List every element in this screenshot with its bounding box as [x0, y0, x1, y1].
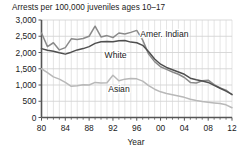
- x-axis-tick-labels: 808488929600040812: [37, 123, 237, 133]
- x-axis-tick-label: 12: [227, 123, 237, 133]
- x-axis-tick-label: 84: [61, 123, 71, 133]
- gridlines: [42, 20, 233, 118]
- y-axis-tick-labels: 3,0002,5002,0001,5001,0005000: [16, 15, 37, 123]
- chart-figure: Arrests per 100,000 juveniles ages 10–17…: [0, 0, 246, 150]
- y-axis-tick-label: 1,500: [16, 64, 37, 74]
- x-axis-tick-label: 92: [108, 123, 118, 133]
- y-axis-tick-label: 500: [23, 96, 37, 106]
- y-axis-tick-label: 0: [32, 113, 37, 123]
- y-axis-tick-label: 2,000: [16, 48, 37, 58]
- x-axis-tick-label: 80: [37, 123, 47, 133]
- x-axis-tick-label: 08: [204, 123, 214, 133]
- series-annotation-label: Amer. Indian: [140, 29, 188, 39]
- series-annotation-label: Asian: [108, 84, 130, 94]
- x-axis-tick-label: 00: [156, 123, 166, 133]
- y-axis-tick-label: 3,000: [16, 15, 37, 25]
- series-annotation-label: White: [105, 50, 127, 60]
- x-axis-tick-label: 04: [180, 123, 190, 133]
- x-axis-tick-label: 96: [132, 123, 142, 133]
- x-axis-label: Year: [128, 137, 145, 147]
- x-axis-tick-label: 88: [84, 123, 94, 133]
- y-axis-tick-label: 2,500: [16, 31, 37, 41]
- line-chart-plot: 3,0002,5002,0001,5001,0005000 8084889296…: [0, 0, 246, 150]
- y-axis-tick-label: 1,000: [16, 80, 37, 90]
